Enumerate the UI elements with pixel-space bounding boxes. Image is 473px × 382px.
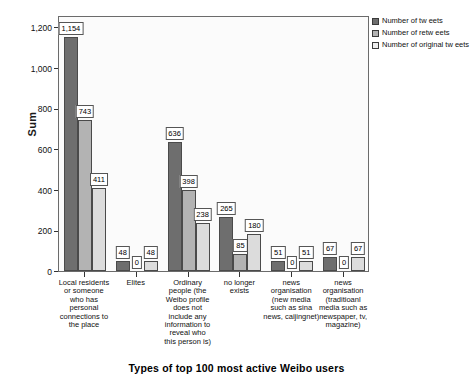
bar-wrapper: 411: [92, 17, 106, 271]
bar-wrapper: 0: [130, 17, 144, 271]
x-axis-tick: [136, 272, 137, 277]
bar-group: 51051: [266, 17, 318, 271]
bar-wrapper: 180: [247, 17, 261, 271]
bar[interactable]: 238: [196, 223, 210, 271]
bar-wrapper: 265: [219, 17, 233, 271]
legend-item-label: Number of tw eets: [382, 16, 443, 26]
legend-item[interactable]: Number of tw eets: [372, 16, 473, 27]
bar[interactable]: 1,154: [64, 37, 78, 271]
bar-wrapper: 636: [168, 17, 182, 271]
bar-value-label: 67: [351, 242, 365, 255]
bar-group: 636398238: [163, 17, 215, 271]
y-axis-tick: 0: [47, 267, 58, 277]
bar[interactable]: 51: [271, 261, 285, 271]
bar-wrapper: 238: [196, 17, 210, 271]
bar-value-label: 180: [245, 219, 264, 232]
x-axis-category-label: news organisation (new media such as sin…: [263, 279, 319, 321]
bar[interactable]: 51: [299, 261, 313, 271]
y-axis-tick-label: 200: [38, 226, 54, 236]
bar-wrapper: 51: [271, 17, 285, 271]
bar-wrapper: 67: [323, 17, 337, 271]
x-axis-category-label: Local residents or someone who has perso…: [58, 279, 110, 329]
bar-value-label: 51: [271, 246, 285, 259]
bar-value-label: 411: [90, 173, 108, 186]
bar-wrapper: 1,154: [64, 17, 78, 271]
y-axis: 02004006008001,0001,200: [0, 0, 58, 382]
bar-value-label: 0: [287, 256, 297, 269]
bar[interactable]: 67: [323, 257, 337, 271]
plot-inner: 1,15474341148048636398238265851805105167…: [59, 17, 368, 271]
y-axis-tick-label: 0: [47, 267, 54, 277]
bar[interactable]: 398: [182, 190, 196, 271]
x-axis-labels: Local residents or someone who has perso…: [58, 279, 369, 359]
bar[interactable]: 48: [116, 261, 130, 271]
bar-wrapper: 51: [299, 17, 313, 271]
x-axis-tick: [188, 272, 189, 277]
bar-value-label: 51: [299, 246, 313, 259]
bar[interactable]: 67: [351, 257, 365, 271]
y-axis-tick: 400: [38, 186, 58, 196]
bar-value-label: 48: [144, 246, 158, 259]
y-axis-tick-label: 1,000: [31, 64, 54, 74]
legend-swatch-icon: [372, 30, 379, 37]
bar-value-label: 67: [323, 242, 337, 255]
bar[interactable]: 85: [233, 254, 247, 271]
chart-title: Types of top 100 most active Weibo users: [0, 362, 473, 374]
legend-item[interactable]: Number of original tw eets: [372, 40, 473, 51]
bar-wrapper: 398: [182, 17, 196, 271]
legend-swatch-icon: [372, 42, 379, 49]
x-axis-category-label: Elites: [116, 279, 156, 287]
y-axis-tick-label: 600: [38, 145, 54, 155]
y-axis-tick: 800: [38, 104, 58, 114]
y-axis-tick-label: 800: [38, 104, 54, 114]
bar-value-label: 0: [132, 256, 142, 269]
legend-item-label: Number of retw eets: [382, 28, 450, 38]
x-axis-tick: [84, 272, 85, 277]
bar[interactable]: 180: [247, 234, 261, 271]
bar-wrapper: 743: [78, 17, 92, 271]
chart-legend: Number of tw eetsNumber of retw eetsNumb…: [372, 16, 473, 52]
y-axis-tick-label: 1,200: [31, 23, 54, 33]
x-axis-category-label: Ordinary people (the Weibo profile does …: [163, 279, 213, 346]
y-axis-tick: 200: [38, 226, 58, 236]
bar[interactable]: 743: [78, 120, 92, 271]
bar-group: 48048: [111, 17, 163, 271]
x-axis-tick: [343, 272, 344, 277]
bar-value-label: 85: [233, 239, 247, 252]
bar-wrapper: 0: [285, 17, 299, 271]
bar[interactable]: 411: [92, 188, 106, 272]
y-axis-tick: 1,000: [31, 64, 58, 74]
bar-value-label: 48: [116, 246, 130, 259]
bar-wrapper: 67: [351, 17, 365, 271]
bar-wrapper: 48: [116, 17, 130, 271]
bar-value-label: 238: [193, 208, 212, 221]
bar-group: 1,154743411: [59, 17, 111, 271]
legend-item[interactable]: Number of retw eets: [372, 28, 473, 39]
bar-group: 26585180: [215, 17, 267, 271]
x-axis-tick: [291, 272, 292, 277]
y-axis-tick: 1,200: [31, 23, 58, 33]
bar-value-label: 0: [339, 256, 349, 269]
bar-group: 67067: [318, 17, 370, 271]
x-axis-category-label: no longer exists: [219, 279, 259, 296]
bar[interactable]: 636: [168, 142, 182, 271]
bar-wrapper: 85: [233, 17, 247, 271]
bar-wrapper: 48: [144, 17, 158, 271]
bar-chart: Sum 02004006008001,0001,200 1,1547434114…: [0, 0, 473, 382]
x-axis-category-label: news organisation (traditioanl media suc…: [315, 279, 371, 329]
y-axis-tick-label: 400: [38, 186, 54, 196]
bar[interactable]: 48: [144, 261, 158, 271]
plot-area: 1,15474341148048636398238265851805105167…: [58, 16, 369, 272]
y-axis-tick: 600: [38, 145, 58, 155]
bar[interactable]: 265: [219, 217, 233, 271]
x-axis-tick: [239, 272, 240, 277]
legend-item-label: Number of original tw eets: [382, 40, 469, 50]
legend-swatch-icon: [372, 18, 379, 25]
bar-wrapper: 0: [337, 17, 351, 271]
